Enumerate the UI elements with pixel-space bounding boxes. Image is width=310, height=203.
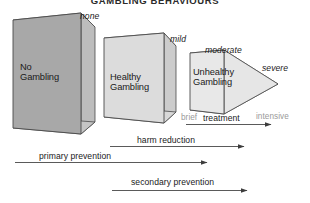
block-label-healthy-gambling-line2: Gambling bbox=[110, 83, 149, 93]
block-label-unhealthy-gambling-line1: Unhealthy bbox=[193, 67, 234, 77]
block-label-healthy-gambling: Healthy Gambling bbox=[110, 73, 149, 93]
block-label-unhealthy-gambling-line2: Gambling bbox=[193, 78, 234, 88]
block-label-healthy-gambling-line1: Healthy bbox=[110, 72, 141, 82]
intensity-label-intensive: intensive bbox=[256, 113, 289, 122]
gambling-continuum-figure: GAMBLING BEHAVIOURS bbox=[0, 0, 310, 203]
block2-side-face bbox=[164, 33, 176, 123]
severity-label-severe: severe bbox=[262, 64, 288, 73]
block-label-no-gambling-line2: Gambling bbox=[20, 73, 59, 83]
intensity-label-brief: brief bbox=[181, 114, 197, 123]
severity-label-mild: mild bbox=[170, 35, 186, 44]
diagram-canvas bbox=[0, 0, 310, 203]
block-label-no-gambling: No Gambling bbox=[20, 63, 59, 83]
arrow-label-harm-reduction: harm reduction bbox=[137, 136, 195, 145]
block1-side-face bbox=[81, 13, 95, 134]
block-label-no-gambling-line1: No bbox=[20, 62, 32, 72]
severity-label-moderate: moderate bbox=[205, 46, 242, 55]
arrow-label-primary-prevention: primary prevention bbox=[39, 152, 111, 161]
arrow-label-treatment: treatment bbox=[203, 114, 240, 123]
block-label-unhealthy-gambling: Unhealthy Gambling bbox=[193, 68, 234, 88]
arrow-label-secondary-prevention: secondary prevention bbox=[131, 178, 214, 187]
severity-label-none: none bbox=[80, 12, 99, 21]
